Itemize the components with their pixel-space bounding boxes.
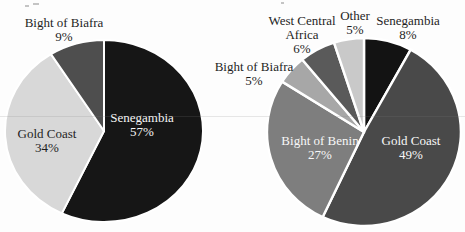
slice-pct: 49% <box>382 148 441 162</box>
scan-artifact-speck <box>33 3 39 5</box>
slice-name: Senegambia <box>110 111 174 125</box>
label-right-west-central-africa: West Central Africa 6% <box>256 14 348 56</box>
slice-name: Gold Coast <box>18 127 77 141</box>
label-right-gold-coast: Gold Coast 49% <box>382 134 441 162</box>
slice-pct: 34% <box>18 141 77 155</box>
label-right-bight-of-benin: Bight of Benin 27% <box>281 134 358 162</box>
slice-name: Bight of Benin <box>281 134 358 148</box>
slice-pct: 27% <box>281 148 358 162</box>
right-pie-chart <box>266 37 462 227</box>
scan-artifact-line <box>0 116 465 117</box>
slice-name: Bight of Biafra <box>25 16 104 30</box>
slice-pct: 8% <box>376 28 440 42</box>
scan-artifact-speck <box>25 5 29 7</box>
label-right-senegambia: Senegambia 8% <box>376 14 440 42</box>
figure-canvas: Bight of Biafra 9% Gold Coast 34% Senega… <box>0 0 465 232</box>
slice-pct: 5% <box>215 74 294 88</box>
slice-pct: 6% <box>256 42 348 56</box>
slice-name: Gold Coast <box>382 134 441 148</box>
label-left-gold-coast: Gold Coast 34% <box>18 127 77 155</box>
slice-name: Senegambia <box>376 14 440 28</box>
slice-pct: 5% <box>340 23 370 37</box>
slice-pct: 9% <box>25 30 104 44</box>
slice-name: Bight of Biafra <box>215 60 294 74</box>
label-right-bight-of-biafra: Bight of Biafra 5% <box>215 60 294 88</box>
label-right-other: Other 5% <box>340 9 370 37</box>
slice-pct: 57% <box>110 125 174 139</box>
slice-name: West Central Africa <box>256 14 348 42</box>
slice-name: Other <box>340 9 370 23</box>
scan-artifact-speck <box>281 2 284 4</box>
label-left-bight-of-biafra: Bight of Biafra 9% <box>25 16 104 44</box>
